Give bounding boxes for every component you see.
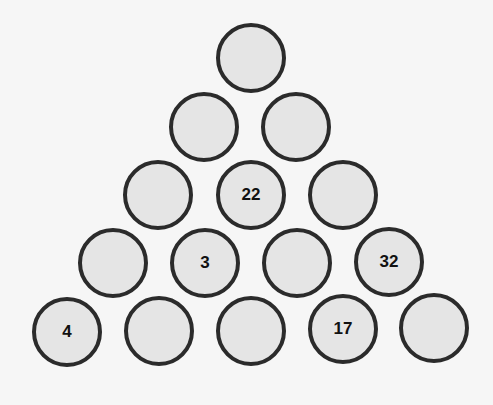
pyramid-cell-r3-c1[interactable] — [123, 160, 193, 230]
pyramid-cell-r5-c4[interactable]: 17 — [308, 294, 378, 364]
cell-value: 32 — [380, 252, 399, 272]
cell-value: 3 — [200, 253, 209, 273]
cell-value: 4 — [62, 322, 71, 342]
cell-value: 17 — [334, 319, 353, 339]
pyramid-cell-r5-c5[interactable] — [399, 293, 469, 363]
pyramid-cell-r4-c3[interactable] — [262, 228, 332, 298]
cell-value: 22 — [242, 185, 261, 205]
pyramid-cell-r1-c1[interactable] — [216, 23, 286, 93]
pyramid-cell-r2-c1[interactable] — [169, 92, 239, 162]
pyramid-cell-r4-c4[interactable]: 32 — [354, 227, 424, 297]
pyramid-cell-r5-c2[interactable] — [124, 296, 194, 366]
pyramid-cell-r3-c3[interactable] — [308, 160, 378, 230]
pyramid-cell-r3-c2[interactable]: 22 — [216, 160, 286, 230]
pyramid-cell-r4-c2[interactable]: 3 — [170, 228, 240, 298]
pyramid-cell-r5-c1[interactable]: 4 — [32, 297, 102, 367]
pyramid-cell-r2-c2[interactable] — [261, 92, 331, 162]
pyramid-cell-r5-c3[interactable] — [216, 296, 286, 366]
pyramid-cell-r4-c1[interactable] — [78, 228, 148, 298]
